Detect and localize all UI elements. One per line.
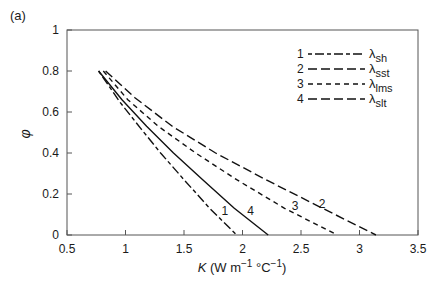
legend-number: 1 — [297, 47, 304, 61]
x-tick-label: 1 — [122, 242, 129, 256]
x-axis-label: K (W m−1 °C−1) — [198, 258, 287, 275]
y-axis-label: φ — [17, 129, 33, 138]
y-tick-label: 0.4 — [42, 146, 59, 160]
plot-frame — [67, 30, 418, 235]
y-tick-label: 0.6 — [42, 105, 59, 119]
curve-label: 3 — [292, 199, 299, 213]
curve-label: 2 — [319, 197, 326, 211]
y-tick-label: 0.2 — [42, 187, 59, 201]
legend-number: 3 — [297, 77, 304, 91]
x-tick-label: 2 — [239, 242, 246, 256]
panel-label: (a) — [10, 8, 26, 23]
legend-number: 4 — [297, 92, 304, 106]
line-chart: (a) 0.511.522.533.5 00.20.40.60.81 1432 … — [0, 0, 442, 290]
x-tick-label: 2.5 — [293, 242, 310, 256]
data-curves — [99, 71, 376, 235]
curve-4 — [99, 71, 269, 235]
legend-number: 2 — [297, 62, 304, 76]
y-tick-label: 1 — [52, 23, 59, 37]
curve-annotations: 1432 — [222, 197, 326, 217]
x-tick-label: 3 — [356, 242, 363, 256]
curve-label: 1 — [222, 204, 229, 218]
legend: 1λsh2λsst3λlms4λslt — [297, 46, 393, 109]
x-tick-label: 0.5 — [59, 242, 76, 256]
x-axis: 0.511.522.533.5 — [59, 230, 427, 256]
curve-label: 4 — [247, 204, 254, 218]
x-tick-label: 3.5 — [410, 242, 427, 256]
y-axis: 00.20.40.60.81 — [42, 23, 72, 242]
y-tick-label: 0.8 — [42, 64, 59, 78]
curve-2 — [106, 71, 376, 235]
y-tick-label: 0 — [52, 228, 59, 242]
x-tick-label: 1.5 — [176, 242, 193, 256]
